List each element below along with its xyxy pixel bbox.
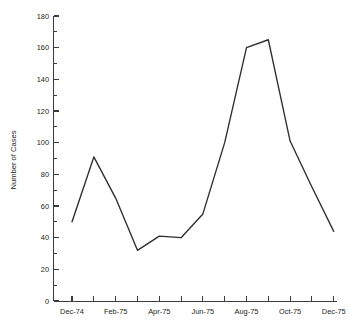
y-tick-label: 180 bbox=[37, 12, 49, 21]
data-series-line bbox=[72, 40, 334, 251]
x-axis-group: Dec-74Feb-75Apr-75Jun-75Aug-75Oct-75Dec-… bbox=[54, 296, 346, 317]
y-axis-ticks bbox=[54, 16, 60, 301]
y-tick-label: 80 bbox=[41, 170, 49, 179]
y-tick-label: 160 bbox=[37, 43, 49, 52]
y-tick-label: 0 bbox=[45, 297, 49, 306]
y-tick-label: 60 bbox=[41, 202, 49, 211]
x-axis-ticks bbox=[72, 296, 334, 302]
y-tick-label: 40 bbox=[41, 233, 49, 242]
x-tick-label: Oct-75 bbox=[279, 307, 301, 316]
y-tick-label: 100 bbox=[37, 138, 49, 147]
x-tick-label: Apr-75 bbox=[148, 307, 170, 316]
chart-canvas: 020406080100120140160180 Dec-74Feb-75Apr… bbox=[0, 0, 349, 328]
x-tick-label: Jun-75 bbox=[192, 307, 215, 316]
y-axis-tick-labels: 020406080100120140160180 bbox=[37, 12, 49, 306]
x-tick-label: Dec-75 bbox=[322, 307, 346, 316]
y-tick-label: 20 bbox=[41, 265, 49, 274]
x-tick-label: Dec-74 bbox=[60, 307, 84, 316]
y-axis-title: Number of Cases bbox=[9, 130, 18, 189]
y-tick-label: 140 bbox=[37, 75, 49, 84]
y-tick-label: 120 bbox=[37, 107, 49, 116]
x-axis-tick-labels: Dec-74Feb-75Apr-75Jun-75Aug-75Oct-75Dec-… bbox=[60, 307, 346, 316]
plot-area bbox=[72, 40, 334, 251]
x-tick-label: Feb-75 bbox=[104, 307, 127, 316]
y-axis-group: 020406080100120140160180 bbox=[37, 12, 59, 306]
line-chart: 020406080100120140160180 Dec-74Feb-75Apr… bbox=[0, 0, 349, 328]
x-tick-label: Aug-75 bbox=[235, 307, 259, 316]
